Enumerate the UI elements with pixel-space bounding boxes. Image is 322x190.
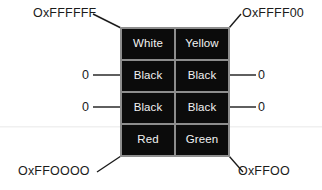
callout-bottom-left: OxFFOOOO	[18, 164, 90, 178]
grid-cell-black-r3c1: Black	[122, 93, 174, 123]
callout-top-left: OxFFFFFF	[33, 6, 96, 20]
grid-cell-white: White	[122, 29, 174, 59]
zero-label-right-lower: 0	[258, 100, 265, 114]
grid-cell-black-r2c1: Black	[122, 61, 174, 91]
leader-line-top-right	[229, 14, 241, 28]
leader-line-top-left	[93, 14, 121, 28]
diagram-canvas: White Yellow Black Black Black Black Red…	[0, 0, 322, 190]
grid-cell-yellow: Yellow	[176, 29, 228, 59]
leader-line-bottom-left	[97, 156, 121, 172]
callout-top-right: OxFFFF00	[242, 6, 304, 20]
grid-cell-black-r3c2: Black	[176, 93, 228, 123]
grid-cell-black-r2c2: Black	[176, 61, 228, 91]
grid-cell-red: Red	[122, 125, 174, 155]
zero-label-left-lower: 0	[82, 100, 89, 114]
zero-label-right-upper: 0	[258, 68, 265, 82]
callout-bottom-right: OxFFOO	[238, 164, 290, 178]
zero-label-left-upper: 0	[82, 68, 89, 82]
grid-cell-green: Green	[176, 125, 228, 155]
color-grid: White Yellow Black Black Black Black Red…	[120, 27, 230, 157]
